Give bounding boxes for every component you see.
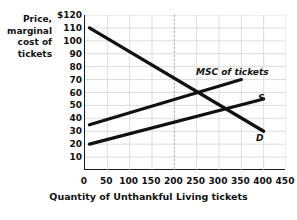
plot-area	[84, 15, 285, 170]
supply-curve-label: S	[258, 93, 264, 103]
y-tick-label: 40	[50, 113, 82, 123]
gridlines	[85, 15, 286, 170]
curve-lines	[89, 28, 263, 144]
y-axis-title-line-4: tickets	[2, 49, 52, 61]
y-tick-label: 10	[50, 152, 82, 162]
chart-figure: Price, marginal cost of tickets 10203040…	[0, 0, 297, 220]
x-tick-label: 150	[142, 176, 161, 186]
x-tick-label: 350	[231, 176, 250, 186]
demand-curve-label: D	[256, 133, 263, 143]
x-axis-tick-labels: 050100150200250300350400450	[0, 176, 297, 190]
x-tick-label: 450	[276, 176, 295, 186]
y-tick-label: 20	[50, 139, 82, 149]
x-tick-label: 200	[164, 176, 183, 186]
y-tick-label: 90	[50, 49, 82, 59]
y-tick-label: $120	[50, 10, 82, 20]
y-tick-label: 100	[50, 36, 82, 46]
x-tick-label: 0	[81, 176, 87, 186]
x-tick-label: 300	[209, 176, 228, 186]
x-axis-title: Quantity of Unthankful Living tickets	[0, 191, 297, 202]
y-tick-label: 30	[50, 126, 82, 136]
x-tick-label: 100	[119, 176, 138, 186]
msc-curve-label: MSC of tickets	[196, 67, 269, 77]
x-tick-label: 50	[100, 176, 113, 186]
y-tick-label: 50	[50, 100, 82, 110]
y-axis-title-line-2: marginal	[2, 26, 52, 38]
y-axis-title-line-1: Price,	[2, 14, 52, 26]
y-tick-label: 60	[50, 88, 82, 98]
x-tick-label: 400	[253, 176, 272, 186]
y-axis-title: Price, marginal cost of tickets	[2, 14, 52, 60]
x-tick-label: 250	[186, 176, 205, 186]
y-tick-label: 70	[50, 75, 82, 85]
chart-canvas	[85, 15, 286, 170]
y-tick-label: 110	[50, 23, 82, 33]
y-tick-label: 80	[50, 62, 82, 72]
y-axis-title-line-3: cost of	[2, 37, 52, 49]
